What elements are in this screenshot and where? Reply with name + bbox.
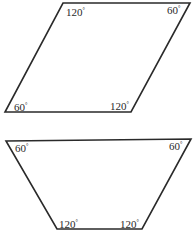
angle-label-bottom-right: 120° xyxy=(110,100,130,112)
angle-label-top-left: 120° xyxy=(66,6,86,18)
diagram-canvas: 120° 60° 60° 120° 60° 60° 120° 120° xyxy=(0,0,193,233)
angle-label-top-left: 60° xyxy=(15,142,29,154)
angle-label-top-right: 60° xyxy=(169,140,183,152)
parallelogram-shape xyxy=(5,3,190,112)
angle-label-top-right: 60° xyxy=(167,4,181,16)
trapezoid-angle-labels: 60° 60° 120° 120° xyxy=(15,140,183,230)
geometry-diagram: 120° 60° 60° 120° 60° 60° 120° 120° xyxy=(0,0,193,233)
trapezoid-shape xyxy=(6,139,191,229)
parallelogram-angle-labels: 120° 60° 60° 120° xyxy=(14,4,181,113)
